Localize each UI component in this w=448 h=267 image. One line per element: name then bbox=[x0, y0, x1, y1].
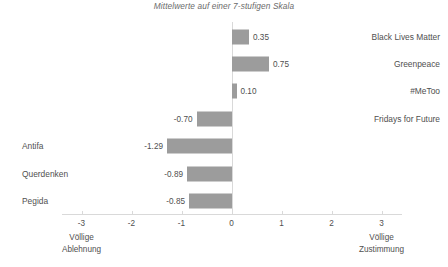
axis-end-label-left: VölligeAblehnung bbox=[27, 232, 137, 255]
bar bbox=[232, 57, 270, 72]
category-label: #MeToo bbox=[410, 86, 440, 96]
x-tick-mark bbox=[82, 211, 83, 215]
category-label: Querdenken bbox=[22, 169, 68, 179]
x-tick-label: 3 bbox=[362, 219, 402, 228]
x-tick-label: 1 bbox=[262, 219, 302, 228]
bar-value-label: -1.29 bbox=[141, 142, 163, 151]
bar-row: -1.29Antifa bbox=[0, 133, 448, 160]
x-tick-mark bbox=[332, 211, 333, 215]
bar bbox=[232, 29, 250, 44]
bar-row: -0.70Fridays for Future bbox=[0, 105, 448, 132]
plot-area: 0.35Black Lives Matter0.75Greenpeace0.10… bbox=[0, 22, 448, 214]
bar-row: 0.35Black Lives Matter bbox=[0, 23, 448, 50]
category-label: Antifa bbox=[22, 141, 43, 151]
bar bbox=[187, 166, 232, 181]
x-tick-mark bbox=[282, 211, 283, 215]
x-tick-label: -1 bbox=[162, 219, 202, 228]
x-tick-mark bbox=[232, 211, 233, 215]
axis-end-label-right: VölligeZustimmung bbox=[327, 232, 437, 255]
axis-end-label-line2: Ablehnung bbox=[27, 244, 137, 256]
bar bbox=[167, 139, 232, 154]
x-tick-label: 2 bbox=[312, 219, 352, 228]
x-tick-label: 0 bbox=[212, 219, 252, 228]
bar-value-label: -0.89 bbox=[161, 169, 183, 178]
bar-row: 0.75Greenpeace bbox=[0, 50, 448, 77]
x-tick-mark bbox=[382, 211, 383, 215]
bar-value-label: -0.70 bbox=[171, 114, 193, 123]
bar-value-label: 0.35 bbox=[253, 32, 269, 41]
x-tick-label: -2 bbox=[112, 219, 152, 228]
x-axis: -3-2-10123VölligeAblehnungVölligeZustimm… bbox=[0, 214, 448, 267]
category-label: Fridays for Future bbox=[374, 114, 440, 124]
bar-value-label: 0.75 bbox=[273, 60, 289, 69]
bar bbox=[197, 111, 232, 126]
bar bbox=[232, 84, 237, 99]
axis-end-label-line1: Völlige bbox=[327, 232, 437, 244]
category-label: Greenpeace bbox=[394, 59, 440, 69]
bar bbox=[189, 194, 232, 209]
x-tick-mark bbox=[182, 211, 183, 215]
bar-chart: Mittelwerte auf einer 7-stufigen Skala 0… bbox=[0, 0, 448, 267]
bar-row: 0.10#MeToo bbox=[0, 78, 448, 105]
x-tick-mark bbox=[132, 211, 133, 215]
x-tick-label: -3 bbox=[62, 219, 102, 228]
bar-row: -0.89Querdenken bbox=[0, 160, 448, 187]
bar-value-label: 0.10 bbox=[241, 87, 257, 96]
axis-end-label-line1: Völlige bbox=[27, 232, 137, 244]
chart-title: Mittelwerte auf einer 7-stufigen Skala bbox=[0, 1, 448, 11]
axis-end-label-line2: Zustimmung bbox=[327, 244, 437, 256]
category-label: Pegida bbox=[22, 196, 48, 206]
category-label: Black Lives Matter bbox=[372, 32, 440, 42]
bar-value-label: -0.85 bbox=[163, 197, 185, 206]
